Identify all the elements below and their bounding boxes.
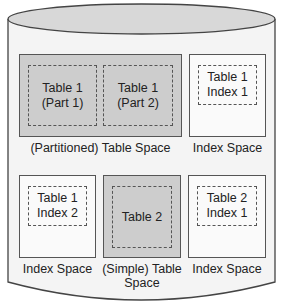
part1-line1: Table 1 — [42, 81, 82, 96]
part2-line1: Table 1 — [118, 81, 158, 96]
index-line2: Index 1 — [206, 206, 247, 221]
index-space-label-bottom-left: Index Space — [15, 262, 100, 276]
part2-line2: (Part 2) — [117, 96, 159, 111]
index-space-table1-index1: Table 1 Index 1 — [189, 54, 266, 137]
table1-part2: Table 1 (Part 2) — [103, 65, 173, 126]
table1-index2: Table 1 Index 2 — [28, 186, 87, 226]
index-line2: Index 2 — [37, 206, 78, 221]
index-space-table2-index1: Table 2 Index 1 — [188, 175, 266, 258]
part1-line2: (Part 1) — [42, 96, 84, 111]
index-space-label-bottom-right: Index Space — [184, 262, 270, 276]
table1-index1: Table 1 Index 1 — [198, 65, 257, 105]
table2-label: Table 2 — [122, 210, 162, 225]
index-line2: Index 1 — [207, 85, 248, 100]
index-space-table1-index2: Table 1 Index 2 — [19, 175, 96, 258]
index-line1: Table 1 — [207, 70, 247, 85]
table2: Table 2 — [112, 186, 172, 248]
simple-label-line1: (Simple) Table — [96, 262, 188, 276]
simple-table-space: Table 2 — [103, 175, 181, 258]
partitioned-table-space: Table 1 (Part 1) Table 1 (Part 2) — [19, 54, 182, 137]
simple-label-line2: Space — [96, 276, 188, 290]
simple-table-space-label: (Simple) Table Space — [96, 262, 188, 290]
table1-part1: Table 1 (Part 1) — [28, 65, 97, 126]
partitioned-table-space-label: (Partitioned) Table Space — [19, 141, 182, 155]
index-line1: Table 2 — [207, 191, 247, 206]
index-space-label-top: Index Space — [185, 141, 270, 155]
index-line1: Table 1 — [37, 191, 77, 206]
table2-index1: Table 2 Index 1 — [197, 186, 257, 226]
